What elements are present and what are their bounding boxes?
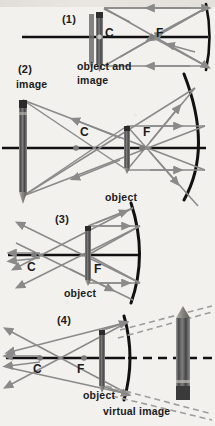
panel-1-focus-label-f: F <box>156 27 164 39</box>
panel-4-caption-object: object <box>83 390 115 401</box>
virtual-ray-a <box>120 306 212 330</box>
panel-3-caption-object: object <box>64 288 96 299</box>
panel-1-number: (1) <box>62 14 76 25</box>
figure-canvas: (1) C F object and image (2) image C F o… <box>0 0 215 426</box>
panel-1-caption-object-and: object and <box>77 61 132 72</box>
panel-4-number: (4) <box>57 315 71 326</box>
concave-mirror-arc <box>131 203 140 303</box>
ray-2b-arrow <box>75 160 120 178</box>
ray-2h <box>23 88 195 196</box>
panel-4-center-label-c: C <box>33 363 42 375</box>
pencil-object <box>99 330 105 393</box>
center-point-dot <box>37 355 43 361</box>
panel-2-center-label-c: C <box>80 126 89 138</box>
pencil-object <box>124 126 130 174</box>
pencil-object <box>85 226 91 286</box>
pencil-virtual-image <box>176 306 190 400</box>
panel-1-caption-image: image <box>77 75 108 86</box>
panel-2-group <box>2 74 206 206</box>
focus-point-dot <box>81 355 87 361</box>
ray-1k <box>104 9 130 22</box>
ray-2i-arrow <box>150 152 176 182</box>
panel-1-center-label-c: C <box>105 27 114 39</box>
panel-2-caption-object: object <box>105 192 137 203</box>
panel-4-caption-virtual-image: virtual image <box>103 406 170 417</box>
ray-4b <box>8 322 128 386</box>
panel-3-center-label-c: C <box>27 261 36 273</box>
pencil-image <box>19 100 27 204</box>
virtual-ray-b <box>118 312 212 338</box>
panel-2-caption-image: image <box>16 79 47 90</box>
panel-2-number: (2) <box>18 64 32 75</box>
panel-3-number: (3) <box>55 214 69 225</box>
panel-2-focus-label-f: F <box>143 126 151 138</box>
panel-3-focus-label-f: F <box>94 263 102 275</box>
focus-point-dot <box>149 34 154 39</box>
ray-4e <box>10 322 128 352</box>
center-point-dot <box>31 252 37 258</box>
center-point-dot <box>73 145 79 151</box>
ray-3k-arrow <box>96 212 124 223</box>
focus-point-dot <box>139 145 145 151</box>
ray-4d <box>8 330 130 395</box>
panel-4-focus-label-f: F <box>77 363 85 375</box>
ray-1-cross-up <box>152 37 206 66</box>
